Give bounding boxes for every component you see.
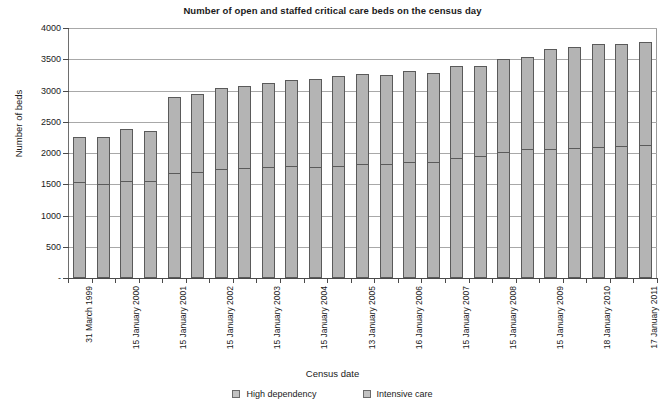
bar-group xyxy=(215,28,228,278)
x-tick-mark xyxy=(351,278,352,283)
x-tick-mark xyxy=(186,278,187,283)
x-tick-mark xyxy=(657,278,658,283)
y-tick-label: 2000 xyxy=(41,148,61,158)
x-axis-title: Census date xyxy=(0,368,665,379)
bar-segment-intensive-care xyxy=(168,173,181,278)
bar-segment-intensive-care xyxy=(73,182,86,278)
x-tick-mark xyxy=(68,278,69,283)
x-axis-line xyxy=(68,278,658,279)
chart-title: Number of open and staffed critical care… xyxy=(0,5,665,16)
bar-segment-high-dependency xyxy=(168,97,181,173)
x-tick-mark xyxy=(233,278,234,283)
y-tick-label: 4000 xyxy=(41,23,61,33)
bar-segment-intensive-care xyxy=(380,164,393,278)
bar-group xyxy=(403,28,416,278)
bars-layer xyxy=(68,28,657,278)
x-tick-mark xyxy=(516,278,517,283)
x-tick-label: 15 January 2001 xyxy=(178,286,188,349)
bar-group xyxy=(168,28,181,278)
bar-segment-intensive-care xyxy=(356,164,369,278)
bar-segment-high-dependency xyxy=(497,59,510,152)
bar-group xyxy=(639,28,652,278)
legend-swatch-icon xyxy=(232,390,240,398)
bar-segment-high-dependency xyxy=(521,57,534,150)
bar-segment-high-dependency xyxy=(450,66,463,158)
y-tick-label: 1500 xyxy=(41,179,61,189)
x-tick-label: 15 January 2004 xyxy=(319,286,329,349)
bar-group xyxy=(285,28,298,278)
x-tick-label: 31 March 1999 xyxy=(84,286,94,343)
x-tick-label: 15 January 2003 xyxy=(272,286,282,349)
bar-segment-intensive-care xyxy=(262,167,275,278)
bar-segment-high-dependency xyxy=(120,129,133,180)
x-tick-mark xyxy=(139,278,140,283)
bar-segment-intensive-care xyxy=(592,147,605,278)
bar-group xyxy=(474,28,487,278)
x-tick-mark xyxy=(162,278,163,283)
bar-segment-intensive-care xyxy=(120,181,133,279)
x-tick-mark xyxy=(280,278,281,283)
bar-group xyxy=(521,28,534,278)
bar-group xyxy=(144,28,157,278)
x-tick-label: 17 January 2011 xyxy=(649,286,659,349)
bar-group xyxy=(191,28,204,278)
bar-segment-intensive-care xyxy=(97,184,110,278)
y-tick-label: 3000 xyxy=(41,86,61,96)
bar-group xyxy=(73,28,86,278)
bar-segment-high-dependency xyxy=(592,44,605,147)
y-tick-label: 2500 xyxy=(41,117,61,127)
y-axis-title: Number of beds xyxy=(13,54,24,194)
bar-group xyxy=(497,28,510,278)
bar-segment-high-dependency xyxy=(97,137,110,183)
legend-item: Intensive care xyxy=(363,389,433,399)
bar-group xyxy=(309,28,322,278)
chart-container: Number of open and staffed critical care… xyxy=(0,0,665,410)
x-tick-mark xyxy=(374,278,375,283)
bar-segment-high-dependency xyxy=(615,44,628,146)
legend-swatch-icon xyxy=(363,390,371,398)
bar-segment-high-dependency xyxy=(427,73,440,162)
bar-segment-intensive-care xyxy=(639,145,652,278)
x-tick-label: 13 January 2005 xyxy=(367,286,377,349)
bar-segment-intensive-care xyxy=(450,158,463,278)
bar-segment-high-dependency xyxy=(474,66,487,156)
legend-label: Intensive care xyxy=(377,389,433,399)
bar-segment-intensive-care xyxy=(497,152,510,278)
bar-segment-high-dependency xyxy=(144,131,157,181)
bar-segment-intensive-care xyxy=(544,149,557,278)
bar-group xyxy=(615,28,628,278)
bar-segment-intensive-care xyxy=(309,167,322,278)
bar-segment-high-dependency xyxy=(238,86,251,169)
bar-group xyxy=(568,28,581,278)
x-tick-label: 15 January 2002 xyxy=(225,286,235,349)
y-tick-label: 500 xyxy=(46,242,61,252)
x-tick-mark xyxy=(304,278,305,283)
bar-segment-intensive-care xyxy=(568,148,581,278)
bar-group xyxy=(356,28,369,278)
bar-group xyxy=(332,28,345,278)
bar-segment-high-dependency xyxy=(73,137,86,183)
bar-segment-intensive-care xyxy=(332,166,345,278)
x-tick-mark xyxy=(633,278,634,283)
bar-segment-intensive-care xyxy=(215,169,228,278)
bar-group xyxy=(544,28,557,278)
bar-group xyxy=(450,28,463,278)
bar-segment-high-dependency xyxy=(309,79,322,167)
bar-segment-high-dependency xyxy=(285,80,298,166)
x-tick-label: 15 January 2000 xyxy=(131,286,141,349)
bar-segment-intensive-care xyxy=(191,172,204,278)
bar-segment-high-dependency xyxy=(191,94,204,172)
x-tick-label: 16 January 2006 xyxy=(414,286,424,349)
bar-group xyxy=(380,28,393,278)
bar-group xyxy=(262,28,275,278)
x-tick-label: 15 January 2007 xyxy=(461,286,471,349)
y-tick-label: - xyxy=(58,273,61,283)
x-tick-mark xyxy=(209,278,210,283)
bar-segment-high-dependency xyxy=(568,47,581,148)
bar-group xyxy=(97,28,110,278)
x-tick-mark xyxy=(563,278,564,283)
bar-segment-high-dependency xyxy=(639,42,652,145)
x-tick-mark xyxy=(469,278,470,283)
x-tick-label: 15 January 2009 xyxy=(555,286,565,349)
bar-segment-intensive-care xyxy=(521,149,534,278)
